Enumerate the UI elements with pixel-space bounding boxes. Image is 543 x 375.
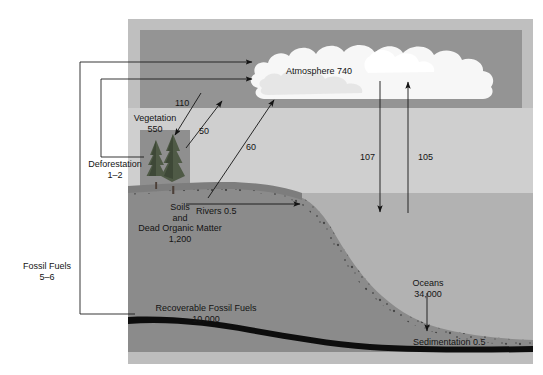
- fossil-fuels-label: Fossil Fuels 5–6: [14, 261, 80, 282]
- flux-value-ocean-release: 105: [418, 152, 433, 163]
- flux-value-soil-respiration: 60: [246, 142, 256, 153]
- fossil-fuels-value: 5–6: [14, 272, 80, 283]
- flux-value-ocean-uptake: 107: [360, 152, 375, 163]
- oceans-name: Oceans: [398, 278, 458, 289]
- vegetation-value: 550: [122, 124, 188, 135]
- soils-value: 1,200: [130, 234, 230, 245]
- oceans-label: Oceans 34,000: [398, 278, 458, 299]
- recoverable-name: Recoverable Fossil Fuels: [135, 303, 277, 314]
- fossil-fuels-name: Fossil Fuels: [14, 261, 80, 272]
- soils-line-3: Dead Organic Matter: [130, 223, 230, 234]
- atmosphere-label: Atmosphere 740: [286, 66, 352, 77]
- oceans-value: 34,000: [398, 289, 458, 300]
- recoverable-value: 10,000: [135, 314, 277, 325]
- recoverable-fossil-fuels-label: Recoverable Fossil Fuels 10,000: [135, 303, 277, 324]
- carbon-cycle-diagram: Atmosphere 740 Vegetation 550 Deforestat…: [0, 0, 543, 375]
- deforestation-value: 1–2: [80, 170, 150, 181]
- rivers-label: Rivers 0.5: [196, 206, 237, 217]
- sedimentation-label: Sedimentation 0.5: [413, 337, 486, 348]
- vegetation-label: Vegetation 550: [122, 113, 188, 134]
- flux-value-photosynthesis: 110: [175, 98, 189, 109]
- flux-value-plant-respiration: 50: [199, 126, 209, 137]
- vegetation-name: Vegetation: [122, 113, 188, 124]
- deforestation-label: Deforestation 1–2: [80, 159, 150, 180]
- deforestation-name: Deforestation: [80, 159, 150, 170]
